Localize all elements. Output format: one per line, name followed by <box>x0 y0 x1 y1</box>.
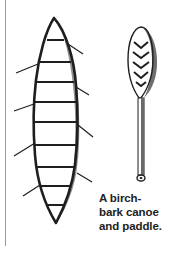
caption-line-3: and paddle. <box>99 219 174 233</box>
paddle-illustration <box>128 27 157 181</box>
figure-caption: A birch- bark canoe and paddle. <box>99 191 174 233</box>
canoe-outrigger-lines <box>14 44 93 196</box>
paddle-chevrons <box>133 42 149 86</box>
caption-line-2: bark canoe <box>99 205 174 219</box>
canoe-illustration <box>14 18 93 223</box>
caption-line-1: A birch- <box>99 191 174 205</box>
figure-page: A birch- bark canoe and paddle. <box>0 0 174 255</box>
paddle-shaft-shading <box>141 98 144 175</box>
paddle-grip-hole <box>140 177 143 179</box>
